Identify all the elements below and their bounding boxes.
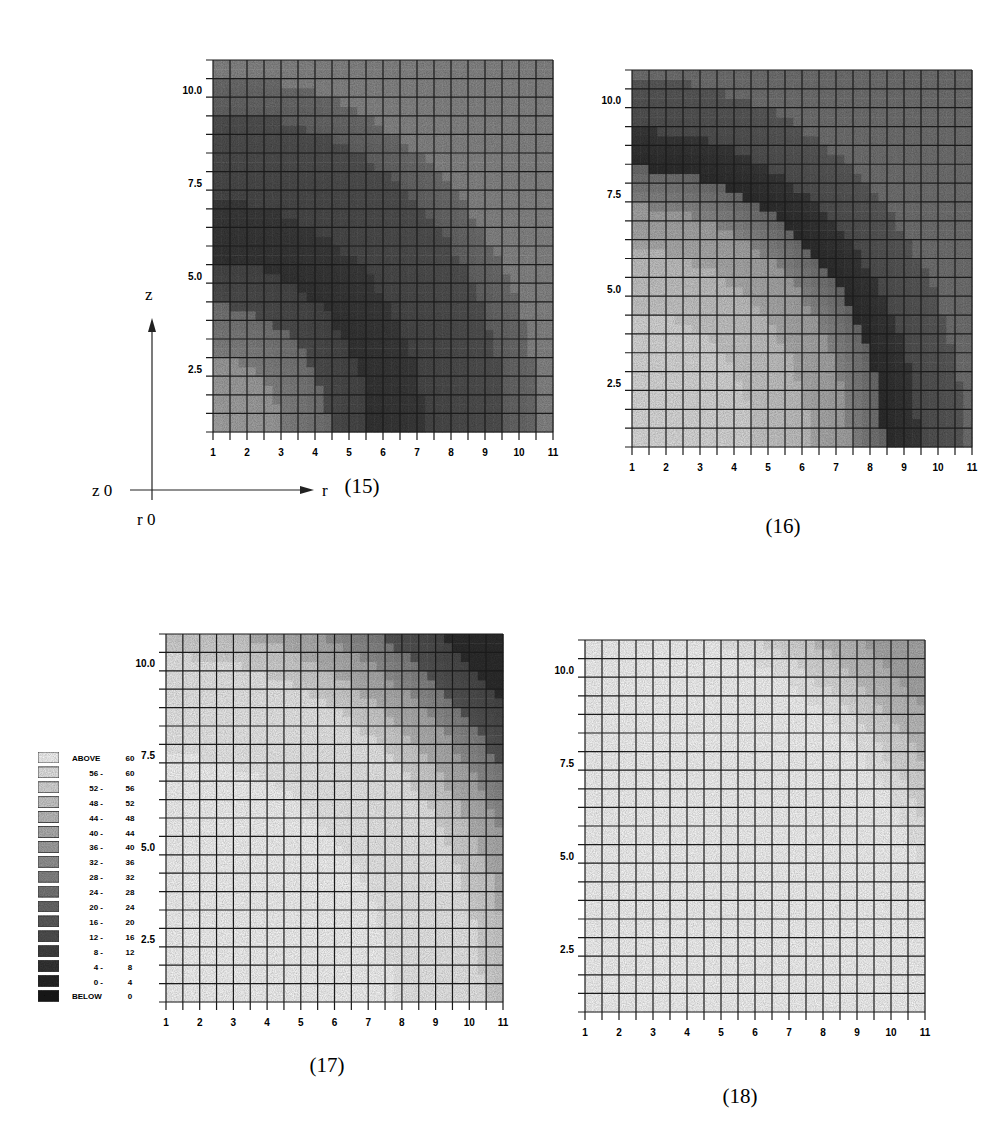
contour-cell xyxy=(751,409,760,419)
contour-cell xyxy=(486,698,495,708)
contour-cell xyxy=(811,145,820,155)
contour-cell xyxy=(247,339,256,349)
y-tick-label: 7.5 xyxy=(560,758,574,769)
contour-cell xyxy=(460,293,469,303)
contour-cell xyxy=(887,372,896,382)
contour-cell xyxy=(658,409,667,419)
contour-cell xyxy=(734,174,743,184)
contour-cell xyxy=(239,395,248,405)
contour-cell xyxy=(315,107,324,117)
contour-cell xyxy=(679,826,688,836)
legend-upper: 24 xyxy=(126,903,135,912)
contour-cell xyxy=(832,984,841,994)
contour-cell xyxy=(222,107,231,117)
contour-cell xyxy=(443,283,452,293)
contour-cell xyxy=(292,864,301,874)
contour-cell xyxy=(273,209,282,219)
contour-cell xyxy=(913,249,922,259)
contour-cell xyxy=(874,798,883,808)
contour-cell xyxy=(594,687,603,697)
contour-cell xyxy=(811,164,820,174)
contour-cell xyxy=(402,882,411,892)
contour-cell xyxy=(811,155,820,165)
contour-cell xyxy=(385,873,394,883)
contour-cell xyxy=(662,733,671,743)
contour-cell xyxy=(324,423,333,433)
contour-cell xyxy=(409,386,418,396)
contour-cell xyxy=(772,761,781,771)
contour-cell xyxy=(402,790,411,800)
contour-cell xyxy=(284,680,293,690)
contour-cell xyxy=(743,70,752,80)
contour-cell xyxy=(938,193,947,203)
contour-cell xyxy=(377,698,386,708)
contour-cell xyxy=(823,649,832,659)
contour-cell xyxy=(887,277,896,287)
contour-cell xyxy=(452,928,461,938)
contour-cell xyxy=(200,708,209,718)
contour-cell xyxy=(641,324,650,334)
contour-cell xyxy=(335,965,344,975)
contour-cell xyxy=(519,246,528,256)
contour-cell xyxy=(264,413,273,423)
contour-cell xyxy=(768,202,777,212)
contour-cell xyxy=(461,873,470,883)
contour-cell xyxy=(955,334,964,344)
contour-cell xyxy=(273,320,282,330)
contour-cell xyxy=(307,153,316,163)
contour-cell xyxy=(913,334,922,344)
contour-cell xyxy=(862,193,871,203)
contour-cell xyxy=(349,153,358,163)
contour-cell xyxy=(332,283,341,293)
contour-cell xyxy=(764,780,773,790)
contour-cell xyxy=(692,89,701,99)
contour-cell xyxy=(536,404,545,414)
contour-cell xyxy=(755,993,764,1003)
contour-cell xyxy=(802,155,811,165)
contour-cell xyxy=(341,255,350,265)
contour-cell xyxy=(426,404,435,414)
contour-cell xyxy=(426,330,435,340)
contour-cell xyxy=(419,984,428,994)
contour-cell xyxy=(256,237,265,247)
contour-cell xyxy=(879,400,888,410)
contour-cell xyxy=(670,975,679,985)
contour-cell xyxy=(502,200,511,210)
contour-cell xyxy=(811,400,820,410)
contour-cell xyxy=(806,789,815,799)
contour-cell xyxy=(366,69,375,79)
contour-cell xyxy=(751,127,760,137)
contour-cell xyxy=(789,873,798,883)
contour-cell xyxy=(670,724,679,734)
contour-cell xyxy=(836,240,845,250)
contour-cell xyxy=(326,928,335,938)
contour-cell xyxy=(785,390,794,400)
contour-cell xyxy=(921,127,930,137)
contour-cell xyxy=(375,116,384,126)
contour-cell xyxy=(410,671,419,681)
contour-cell xyxy=(619,733,628,743)
contour-cell xyxy=(619,649,628,659)
contour-cell xyxy=(917,919,926,929)
contour-cell xyxy=(870,296,879,306)
contour-cell xyxy=(166,855,175,865)
contour-cell xyxy=(802,193,811,203)
contour-cell xyxy=(794,127,803,137)
contour-cell xyxy=(242,652,251,662)
contour-cell xyxy=(375,283,384,293)
contour-cell xyxy=(213,358,222,368)
contour-cell xyxy=(358,367,367,377)
contour-cell xyxy=(709,381,718,391)
contour-cell xyxy=(917,696,926,706)
contour-cell xyxy=(225,662,234,672)
contour-cell xyxy=(284,901,293,911)
contour-cell xyxy=(174,662,183,672)
contour-cell xyxy=(870,277,879,287)
contour-cell xyxy=(478,781,487,791)
contour-cell xyxy=(862,362,871,372)
contour-cell xyxy=(670,873,679,883)
contour-cell xyxy=(815,910,824,920)
contour-cell xyxy=(964,230,973,240)
contour-cell xyxy=(247,386,256,396)
contour-cell xyxy=(225,892,234,902)
